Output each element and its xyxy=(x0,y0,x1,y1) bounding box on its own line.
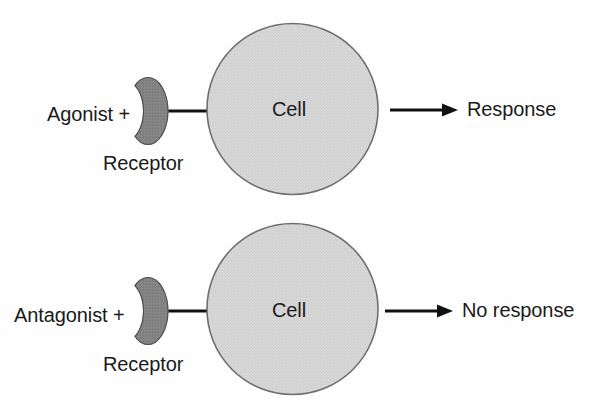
receptor-pharmacology-diagram xyxy=(0,0,594,414)
cell-label-bottom: Cell xyxy=(272,300,306,320)
diagram-canvas: Agonist + Receptor Cell Response Antagon… xyxy=(0,0,594,414)
response-outcome-label: Response xyxy=(467,99,556,119)
cell-label-top: Cell xyxy=(272,99,306,119)
receptor-label-top: Receptor xyxy=(103,153,183,173)
arrow-right-icon xyxy=(385,305,453,318)
no-response-outcome-label: No response xyxy=(462,300,574,320)
arrow-right-icon xyxy=(390,104,458,117)
agonist-ligand-label: Agonist + xyxy=(47,104,130,124)
receptor-label-bottom: Receptor xyxy=(103,354,183,374)
antagonist-ligand-label: Antagonist + xyxy=(14,305,125,325)
